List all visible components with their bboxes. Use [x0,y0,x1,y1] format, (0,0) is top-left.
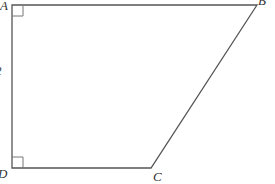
right-angle-mark-a [12,5,23,16]
vertex-label-b: B [258,0,266,8]
vertex-label-c: C [153,169,162,184]
vertex-label-a: A [0,0,8,13]
side-label-ad: 2 [0,63,2,78]
right-angle-mark-d [12,157,23,168]
vertex-label-d: D [0,166,8,181]
trapezoid-abcd [12,5,257,168]
trapezoid-diagram: A B C D 2 [0,0,275,184]
